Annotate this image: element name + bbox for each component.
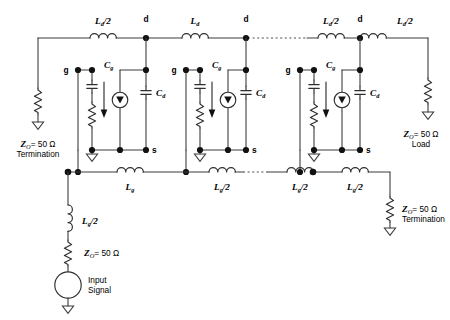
label-ld-full-1: Ld: [190, 16, 201, 27]
cell2-gate-node-dot: [183, 67, 189, 73]
ground-symbol-cell1-source: [86, 154, 97, 161]
drain-line-load-right: ZO= 50 Ω Load: [402, 38, 438, 149]
label-ld-half-right-2: Ld/2: [396, 16, 413, 27]
resistor-ri-2: [196, 102, 203, 128]
node-label-d-1: d: [143, 14, 148, 24]
ground-symbol-input-source: [62, 306, 73, 313]
cell3-gate-node-dot: [297, 67, 303, 73]
inductor-ld-half-right-2: [360, 34, 386, 38]
cell2-label-cg: Cg: [212, 60, 221, 71]
cell1-label-cd: Cd: [156, 88, 166, 99]
capacitor-cd-3: [355, 86, 365, 99]
cell1-gate-node-dot: [75, 67, 81, 73]
resistor-ri-1: [88, 102, 95, 128]
fet-cell-2: g s Cg Cd: [171, 38, 266, 175]
cell1-label-cg: Cg: [104, 60, 113, 71]
cell1-node-label-s: s: [152, 145, 157, 155]
circuit-diagram-figure: Ld/2 Ld Ld/2 Ld/2 d d d ZO= 50 Ω Termina…: [0, 0, 450, 320]
capacitor-cd-2: [241, 86, 251, 99]
capacitor-cg-1: [87, 80, 97, 93]
cell2-cg-node-dot: [197, 67, 203, 73]
label-lg-half-1: Lg/2: [213, 182, 230, 193]
gate-line-termination-left: ZO= 50 Ω Termination: [17, 38, 60, 159]
label-lg-half-input: Lg/2: [81, 216, 98, 227]
input-branch: Lg/2 ZO= 50 Ω Input Signal: [55, 172, 119, 313]
resistor-ri-3: [310, 102, 317, 128]
inductor-lg-full-1: [117, 168, 143, 172]
cell3-gate-rail-dot: [297, 169, 303, 175]
cell2-node-label-s: s: [252, 145, 257, 155]
inductor-ld-full-1: [182, 34, 208, 38]
load-right-caption: Load: [412, 139, 431, 149]
inductor-lg-half-3: [342, 168, 368, 172]
cell2-cd-source-dot: [243, 147, 249, 153]
cell3-label-cg: Cg: [326, 60, 335, 71]
cell3-gm-source-dot: [339, 147, 345, 153]
schematic-canvas: Ld/2 Ld Ld/2 Ld/2 d d d ZO= 50 Ω Termina…: [0, 0, 450, 320]
resistor-termination-left: [34, 88, 41, 114]
label-lg-half-2: Lg/2: [291, 182, 308, 193]
input-signal-caption-line2: Signal: [88, 285, 111, 295]
capacitor-cg-3: [309, 80, 319, 93]
resistor-termination-right: [386, 196, 393, 222]
cell3-node-label-g: g: [285, 65, 290, 75]
capacitor-cg-2: [195, 80, 205, 93]
cell2-label-cd: Cd: [256, 88, 266, 99]
label-ld-half-left: Ld/2: [94, 16, 111, 27]
current-arrow-cell3: [323, 82, 330, 118]
cell3-cg-node-dot: [311, 67, 317, 73]
ground-symbol-load-right: [422, 112, 433, 119]
current-arrow-cell1: [101, 82, 108, 118]
gate-line-termination-right: ZO= 50 Ω Termination: [384, 172, 445, 235]
termination-left-caption: Termination: [17, 149, 60, 159]
cell3-source-node-dot: [311, 147, 317, 153]
label-lg-half-3: Lg/2: [346, 182, 363, 193]
gate-transmission-line: [65, 168, 390, 176]
input-signal-caption-line1: Input: [88, 275, 107, 285]
cell1-node-label-g: g: [63, 65, 68, 75]
input-source-impedance-label: ZO= 50 Ω: [83, 248, 119, 259]
cell1-drain-internal-dot: [143, 67, 149, 73]
cell2-node-label-g: g: [171, 65, 176, 75]
capacitor-cd-1: [141, 86, 151, 99]
cell1-cg-node-dot: [89, 67, 95, 73]
ground-symbol-cell3-source: [308, 154, 319, 161]
inductor-ld-half-left: [90, 34, 116, 38]
current-arrow-cell2: [209, 82, 216, 118]
ground-symbol-termination-left: [32, 122, 43, 129]
fet-cell-3: g s Cg Cd: [285, 38, 380, 175]
cell3-label-cd: Cd: [370, 88, 380, 99]
termination-right-caption: Termination: [402, 214, 445, 224]
drain-transmission-line: [38, 34, 428, 38]
cell1-gm-source-dot: [117, 147, 123, 153]
cell3-cd-source-dot: [357, 147, 363, 153]
label-ld-half-right-1: Ld/2: [322, 16, 339, 27]
node-label-d-3: d: [357, 14, 362, 24]
cell2-drain-internal-dot: [243, 67, 249, 73]
cell3-node-label-s: s: [366, 145, 371, 155]
cell2-source-node-dot: [197, 147, 203, 153]
cell1-source-node-dot: [89, 147, 95, 153]
cell2-gm-source-dot: [225, 147, 231, 153]
fet-cell-1: g s Cg Cd: [63, 38, 166, 175]
resistor-input-source-impedance: [64, 240, 71, 266]
ground-symbol-termination-right: [384, 228, 395, 235]
cell3-drain-internal-dot: [357, 67, 363, 73]
inductor-lg-half-1: [209, 168, 235, 172]
ground-symbol-cell2-source: [194, 154, 205, 161]
cell1-cd-source-dot: [143, 147, 149, 153]
inductor-lg-half-input: [68, 205, 72, 231]
inductor-ld-half-right-1: [318, 34, 344, 38]
input-signal-source: [55, 272, 81, 298]
resistor-load-right: [424, 78, 431, 104]
node-label-d-2: d: [243, 14, 248, 24]
gate-rail-node-dot-right: [310, 169, 317, 176]
label-lg-full-1: Lg: [125, 182, 135, 193]
